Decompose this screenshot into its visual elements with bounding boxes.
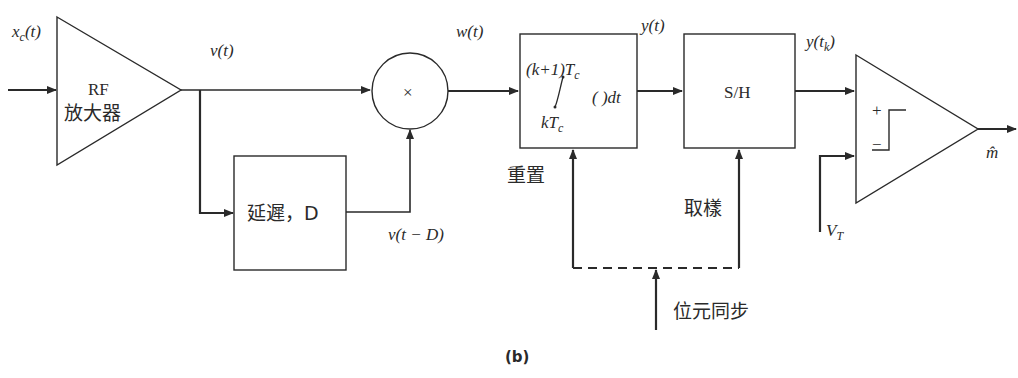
- comparator: + −: [856, 55, 978, 203]
- svg-text:y(tk): y(tk): [804, 32, 835, 54]
- input-signal-label: xc(t): [11, 22, 41, 44]
- minus-sign: −: [872, 135, 882, 154]
- svg-text:xc(t): xc(t): [11, 22, 41, 44]
- bit-sync-label: 位元同步: [673, 300, 749, 322]
- y-signal-label: y(t): [639, 16, 665, 35]
- v-delayed-label: v(t − D): [388, 225, 444, 244]
- sample-hold-label: S/H: [724, 83, 750, 102]
- reset-label: 重置: [507, 164, 545, 186]
- rf-amplifier-label: RF: [88, 80, 109, 99]
- rf-amplifier-cjk-label: 放大器: [64, 102, 121, 124]
- w-signal-label: w(t): [456, 22, 484, 41]
- svg-text:(k+1)Tc: (k+1)Tc: [526, 60, 580, 82]
- multiplier: ×: [372, 53, 448, 129]
- threshold-label: VT: [826, 221, 844, 243]
- v-to-delay-arrow: [200, 90, 233, 213]
- svg-text:VT: VT: [826, 221, 844, 243]
- figure-caption: (b): [505, 348, 529, 366]
- v-signal-label: v(t): [210, 41, 234, 60]
- integrand-label: ( )dt: [592, 88, 622, 107]
- sample-label: 取樣: [684, 197, 722, 219]
- delay-block: 延遲，D: [234, 156, 346, 270]
- receiver-block-diagram: xc(t) RF 放大器 v(t) 延遲，D v(t − D) × w(t) (…: [0, 0, 1018, 378]
- y-sampled-label: y(tk): [804, 32, 835, 54]
- delayed-to-multiplier-arrow: [346, 130, 410, 212]
- integrator-block: (k+1)Tc kTc ( )dt: [520, 34, 637, 148]
- output-label: m̂: [986, 143, 998, 162]
- rf-amplifier: RF 放大器: [57, 17, 181, 165]
- delay-label: 延遲，D: [247, 202, 319, 224]
- multiply-symbol: ×: [403, 83, 413, 102]
- sample-hold-block: S/H: [684, 34, 795, 148]
- plus-sign: +: [872, 101, 882, 120]
